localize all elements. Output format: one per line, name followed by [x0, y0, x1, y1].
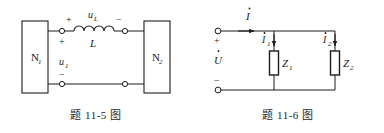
- branch1-current-subscript: 1: [267, 40, 271, 48]
- terminal-input-negative: [215, 87, 221, 93]
- block-n1-subscript: 1: [38, 58, 42, 66]
- port-voltage-label: u: [59, 56, 64, 67]
- source-voltage-phasor-dot: [218, 50, 220, 52]
- branch1-current-phasor-dot: [264, 32, 266, 34]
- terminal-bottom-left: [59, 81, 64, 86]
- source-plus-sign: +: [214, 35, 220, 46]
- total-current-label: I: [245, 10, 251, 22]
- branch2-current-phasor-dot: [325, 32, 327, 34]
- impedance-z2-label: Z: [343, 57, 350, 69]
- impedance-z1: [270, 51, 279, 75]
- impedance-z2-subscript: 2: [350, 64, 354, 72]
- impedance-z1-subscript: 1: [289, 64, 293, 72]
- source-voltage-label: U: [214, 54, 223, 66]
- source-minus-sign: −: [214, 75, 220, 86]
- inductor-coil: [74, 26, 114, 31]
- inductance-label: L: [89, 37, 96, 49]
- terminal-top-left: [59, 28, 64, 33]
- branch1-current-label: I: [261, 34, 266, 45]
- branch2-current-label: I: [322, 34, 327, 45]
- port-minus-sign: −: [59, 69, 65, 80]
- total-current-phasor-dot: [249, 8, 251, 10]
- impedance-z2: [331, 51, 340, 75]
- figure-11-6: I + − U Z 1 I 1: [192, 0, 384, 133]
- port-plus-sign: +: [59, 36, 65, 47]
- circuit-diagram-11-6: I + − U Z 1 I 1: [192, 0, 384, 106]
- inductor-voltage-label: u: [88, 9, 93, 20]
- circuit-diagram-11-5: N 1 N 2 u: [0, 0, 192, 106]
- port-voltage-subscript: 1: [65, 62, 69, 70]
- figure-11-5: N 1 N 2 u: [0, 0, 192, 133]
- inductor-minus-sign: −: [116, 14, 122, 25]
- figure-11-6-caption: 题 11-6 图: [192, 106, 384, 122]
- branch2-current-subscript: 2: [328, 40, 332, 48]
- figure-sheet: N 1 N 2 u: [0, 0, 384, 133]
- inductor-plus-sign: +: [66, 14, 72, 25]
- figure-11-5-caption: 题 11-5 图: [0, 106, 192, 122]
- impedance-z1-label: Z: [282, 57, 289, 69]
- terminal-input-positive: [215, 28, 221, 34]
- block-n2-subscript: 2: [159, 58, 163, 66]
- terminal-bottom-right: [122, 81, 127, 86]
- terminal-top-right: [122, 28, 127, 33]
- inductor-voltage-subscript: L: [93, 15, 98, 23]
